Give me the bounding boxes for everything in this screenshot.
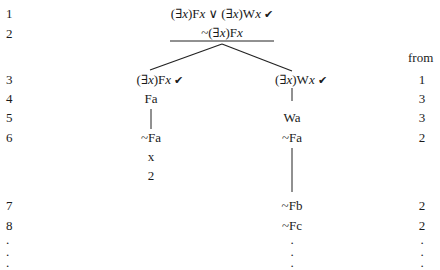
line-number-6: 6: [6, 131, 13, 145]
right-dot: .: [290, 256, 293, 270]
right-branch-head: (∃x)Wx ✔: [275, 73, 327, 87]
from-ref-7: 2: [419, 199, 426, 213]
from-ref-4: 3: [419, 92, 426, 106]
premise-disjunction: (∃x)Fx ∨ (∃x)Wx ✔: [171, 7, 273, 21]
from-ref-6: 2: [419, 131, 426, 145]
right-row-8: ~Fc: [282, 219, 302, 233]
left-row-6: ~Fa: [141, 131, 161, 145]
check-mark-icon: ✔: [318, 74, 327, 86]
closed-branch-ref: 2: [148, 169, 155, 183]
right-row-7: ~Fb: [282, 199, 303, 213]
from-ref-3: 1: [419, 73, 426, 87]
from-ref-8: 2: [419, 219, 426, 233]
line-number-5: 5: [6, 111, 13, 125]
check-mark-icon: ✔: [174, 74, 183, 86]
line-number-1: 1: [6, 7, 13, 21]
line-number-8: 8: [6, 219, 13, 233]
from-ref-5: 3: [419, 111, 426, 125]
line-number-4: 4: [6, 92, 13, 106]
right-row-5: Wa: [284, 111, 301, 125]
from-ref-dot: .: [420, 256, 423, 270]
closed-branch-mark: x: [148, 150, 155, 164]
line-number-2: 2: [6, 27, 13, 41]
line-number-3: 3: [6, 73, 13, 87]
left-branch-head: (∃x)Fx ✔: [137, 73, 184, 87]
check-mark-icon: ✔: [264, 8, 273, 20]
right-branch-line: [222, 44, 292, 71]
line-number-7: 7: [6, 199, 13, 213]
line-number-dot: .: [6, 256, 9, 270]
from-header: from: [408, 51, 433, 65]
right-row-6: ~Fa: [282, 131, 302, 145]
left-branch-line: [150, 44, 222, 70]
negated-conclusion: ~(∃x)Fx: [201, 26, 243, 40]
left-row-4: Fa: [145, 92, 158, 106]
